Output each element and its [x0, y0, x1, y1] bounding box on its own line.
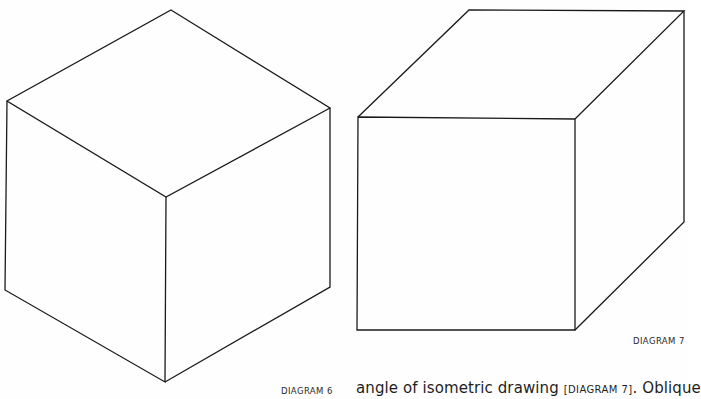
oblique-cube-diagram-7 — [357, 10, 684, 330]
cube-left-face — [5, 101, 166, 382]
top-face — [358, 10, 684, 119]
cube-top-face — [7, 10, 330, 197]
cube-right-face — [165, 108, 330, 382]
body-text-end: . Oblique — [632, 379, 700, 397]
body-text-line: angle of isometric drawing [DIAGRAM 7]. … — [356, 379, 701, 397]
diagram-reference: [DIAGRAM 7] — [564, 384, 633, 395]
body-text-start: angle of isometric drawing — [356, 379, 564, 397]
diagram-6-caption: DIAGRAM 6 — [281, 386, 333, 396]
front-face — [357, 117, 575, 330]
diagram-7-caption: DIAGRAM 7 — [633, 336, 685, 346]
isometric-cube-diagram-6 — [5, 10, 330, 382]
side-face — [575, 11, 684, 330]
